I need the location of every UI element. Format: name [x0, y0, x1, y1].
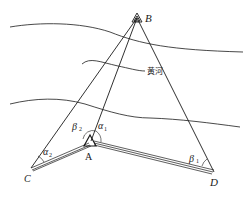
point-label-C: C: [24, 173, 31, 184]
angle-label-beta2: β 2: [71, 121, 82, 132]
angle-label-alpha2: α 2: [43, 146, 52, 158]
line-D-B: [137, 18, 214, 172]
point-label-A: A: [85, 151, 93, 162]
river-label: 黄河: [147, 66, 163, 76]
river-upper-bank: [10, 24, 243, 52]
svg-text:2: 2: [49, 152, 52, 158]
svg-text:β: β: [188, 153, 194, 164]
angle-arc-beta1: [202, 159, 207, 166]
svg-text:1: 1: [196, 158, 199, 164]
svg-text:2: 2: [79, 126, 82, 132]
angle-label-alpha1: α 1: [98, 120, 107, 132]
station-B-marker-icon: [132, 13, 142, 22]
river-survey-diagram: B A C D 黄河 α 1 β 2 α 2 β 1: [0, 0, 249, 199]
angle-label-beta1: β 1: [188, 153, 199, 164]
svg-text:β: β: [71, 121, 77, 132]
angle-arc-alpha1: [96, 131, 101, 142]
point-label-D: D: [209, 176, 218, 188]
river-lower-bank: [10, 99, 240, 127]
river-center-line: [82, 60, 145, 71]
svg-text:1: 1: [104, 126, 107, 132]
point-label-B: B: [145, 12, 152, 24]
